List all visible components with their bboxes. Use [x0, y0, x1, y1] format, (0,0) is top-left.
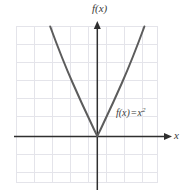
- x-axis-arrowhead: [164, 133, 172, 140]
- equation-annotation: f(x)=x2: [116, 107, 145, 118]
- y-axis-arrowhead: [94, 21, 101, 29]
- plot-canvas: [0, 0, 187, 193]
- equation-equals-sign: =: [130, 107, 138, 118]
- y-axis-label: f(x): [92, 3, 107, 14]
- equation-exponent: 2: [142, 106, 146, 114]
- x-axis-label: x: [174, 130, 179, 141]
- function-graph-figure: f(x) x f(x)=x2: [0, 0, 187, 193]
- equation-function-name: f(x): [116, 107, 130, 118]
